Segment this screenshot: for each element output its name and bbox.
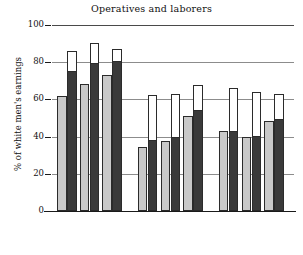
bar-segment-cap bbox=[194, 86, 202, 112]
bar-light bbox=[102, 75, 112, 211]
bar-segment-dark bbox=[230, 131, 238, 210]
bar-light bbox=[161, 141, 171, 211]
bar-segment-dark bbox=[113, 61, 121, 210]
bar-segment-dark bbox=[253, 136, 261, 210]
y-tick-mark bbox=[45, 174, 51, 175]
bar-light bbox=[264, 121, 274, 211]
y-tick-mark bbox=[45, 99, 51, 100]
chart-title: Operatives and laborers bbox=[0, 3, 303, 14]
bar-segment-light bbox=[162, 142, 170, 210]
bar-segment-dark bbox=[194, 110, 202, 210]
y-tick-label: 80 bbox=[22, 56, 44, 66]
bar-segment-light bbox=[220, 132, 228, 210]
bar-segment-light bbox=[184, 117, 192, 210]
bar-segment-cap bbox=[275, 95, 283, 121]
bar-segment-light bbox=[243, 138, 251, 210]
bar-light bbox=[80, 84, 90, 211]
bar-dark-stacked bbox=[171, 94, 181, 211]
bar-dark-stacked bbox=[274, 94, 284, 211]
bars-layer bbox=[52, 25, 294, 211]
bar-dark-stacked bbox=[112, 49, 122, 211]
bar-dark-stacked bbox=[252, 92, 262, 211]
bar-segment-cap bbox=[172, 95, 180, 139]
bar-segment-cap bbox=[230, 89, 238, 133]
bar-dark-stacked bbox=[193, 85, 203, 211]
bar-light bbox=[138, 147, 148, 211]
bar-dark-stacked bbox=[90, 43, 100, 211]
bar-light bbox=[242, 137, 252, 211]
bar-segment-cap bbox=[149, 96, 157, 143]
bar-segment-dark bbox=[68, 71, 76, 210]
bar-segment-light bbox=[58, 97, 66, 210]
y-tick-80: 80 bbox=[22, 62, 52, 72]
plot-area: 020406080100 bbox=[52, 25, 294, 211]
bar-dark-stacked bbox=[229, 88, 239, 211]
y-tick-100: 100 bbox=[22, 25, 52, 35]
y-tick-mark bbox=[45, 62, 51, 63]
y-tick-label: 20 bbox=[22, 168, 44, 178]
bar-segment-light bbox=[103, 76, 111, 210]
bar-light bbox=[57, 96, 67, 211]
bar-segment-light bbox=[81, 85, 89, 210]
y-tick-label: 40 bbox=[22, 131, 44, 141]
bar-segment-cap bbox=[253, 93, 261, 138]
bar-segment-dark bbox=[149, 140, 157, 210]
bar-light bbox=[219, 131, 229, 211]
y-tick-60: 60 bbox=[22, 99, 52, 109]
chart-root: Operatives and laborers % of white men's… bbox=[0, 0, 303, 255]
y-tick-40: 40 bbox=[22, 137, 52, 147]
bar-segment-dark bbox=[275, 119, 283, 210]
y-tick-label: 60 bbox=[22, 93, 44, 103]
bar-dark-stacked bbox=[67, 51, 77, 211]
y-tick-label: 100 bbox=[22, 19, 44, 29]
bar-light bbox=[183, 116, 193, 211]
bar-dark-stacked bbox=[148, 95, 158, 211]
bar-segment-dark bbox=[172, 137, 180, 210]
bar-segment-cap bbox=[91, 44, 99, 65]
y-tick-mark bbox=[45, 25, 51, 26]
y-tick-20: 20 bbox=[22, 174, 52, 184]
x-axis-labels bbox=[52, 213, 294, 243]
y-tick-label: 0 bbox=[22, 205, 44, 215]
bar-segment-light bbox=[139, 148, 147, 210]
y-tick-mark bbox=[45, 137, 51, 138]
bar-segment-dark bbox=[91, 63, 99, 210]
bar-segment-light bbox=[265, 122, 273, 210]
bar-segment-cap bbox=[68, 52, 76, 73]
x-axis-line bbox=[44, 211, 296, 212]
y-tick-0: 0 bbox=[22, 211, 52, 221]
